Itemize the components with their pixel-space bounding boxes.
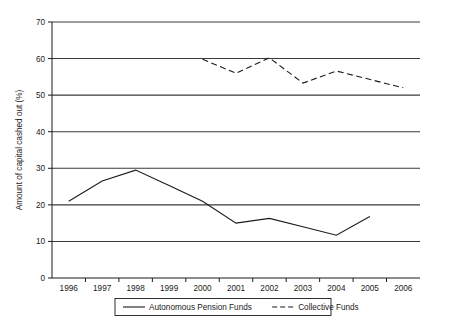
y-tick-label: 0 bbox=[40, 274, 45, 283]
x-tick-label: 2006 bbox=[394, 284, 413, 293]
y-tick-label: 30 bbox=[36, 164, 46, 173]
chart-background bbox=[0, 0, 450, 329]
x-tick-label: 2000 bbox=[193, 284, 212, 293]
y-axis-title: Amount of capital cashed out (%) bbox=[15, 89, 24, 210]
legend-label: Autonomous Pension Funds bbox=[149, 303, 252, 312]
x-tick-label: 2003 bbox=[294, 284, 313, 293]
x-tick-label: 1999 bbox=[160, 284, 179, 293]
x-tick-label: 2005 bbox=[361, 284, 380, 293]
x-tick-label: 1998 bbox=[127, 284, 146, 293]
x-tick-label: 1997 bbox=[93, 284, 112, 293]
chart-legend: Autonomous Pension FundsCollective Funds bbox=[115, 299, 359, 316]
y-tick-label: 60 bbox=[36, 55, 46, 64]
y-tick-label: 40 bbox=[36, 128, 46, 137]
x-tick-label: 2002 bbox=[260, 284, 279, 293]
x-tick-label: 2001 bbox=[227, 284, 246, 293]
x-tick-label: 1996 bbox=[60, 284, 79, 293]
y-tick-label: 50 bbox=[36, 91, 46, 100]
y-tick-label: 70 bbox=[36, 18, 46, 27]
line-chart: 010203040506070 199619971998199920002001… bbox=[0, 0, 450, 329]
chart-figure: 010203040506070 199619971998199920002001… bbox=[0, 0, 450, 329]
x-tick-label: 2004 bbox=[327, 284, 346, 293]
y-tick-label: 10 bbox=[36, 237, 46, 246]
y-tick-label: 20 bbox=[36, 201, 46, 210]
legend-label: Collective Funds bbox=[298, 303, 359, 312]
